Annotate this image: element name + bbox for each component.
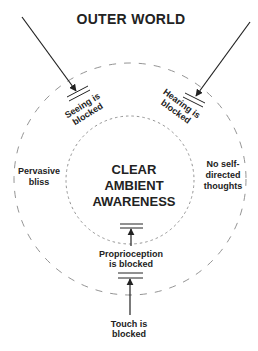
hearing-label: Hearing is blocked xyxy=(155,87,202,129)
touch-arrow xyxy=(118,273,143,315)
hearing-arrow xyxy=(183,22,250,107)
proprioception-label: Proprioception is blocked xyxy=(99,249,163,269)
no-self-directed-thoughts-label: No self- directed thoughts xyxy=(204,159,243,191)
svg-text:Proprioception: Proprioception xyxy=(99,249,163,259)
svg-text:thoughts: thoughts xyxy=(204,181,243,191)
svg-text:directed: directed xyxy=(205,170,240,180)
svg-text:AMBIENT: AMBIENT xyxy=(104,178,163,193)
svg-text:Pervasive: Pervasive xyxy=(18,166,60,176)
svg-text:is blocked: is blocked xyxy=(109,259,153,269)
proprioception-arrow xyxy=(120,224,143,246)
touch-label: Touch is blocked xyxy=(111,319,147,339)
svg-text:No self-: No self- xyxy=(206,159,239,169)
svg-text:CLEAR: CLEAR xyxy=(112,162,157,177)
svg-text:Touch is: Touch is xyxy=(111,319,147,329)
title-outer-world: OUTER WORLD xyxy=(76,11,185,27)
pervasive-bliss-label: Pervasive bliss xyxy=(18,166,60,187)
clear-ambient-awareness-label: CLEAR AMBIENT AWARENESS xyxy=(92,162,175,209)
svg-text:bliss: bliss xyxy=(29,177,50,187)
awareness-diagram: OUTER WORLD Seeing is blocked Hearing is… xyxy=(0,0,258,351)
svg-text:blocked: blocked xyxy=(112,329,146,339)
svg-text:AWARENESS: AWARENESS xyxy=(92,194,175,209)
seeing-arrow xyxy=(22,17,90,101)
